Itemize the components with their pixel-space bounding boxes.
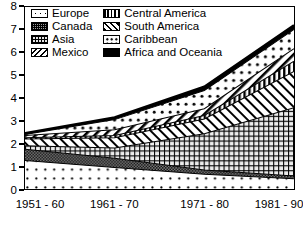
legend-label: Europe [52, 8, 89, 19]
y-tick-label: 1 [5, 161, 17, 173]
stacked-area-chart: 876543210 [0, 0, 303, 232]
y-tick-label: 6 [5, 46, 17, 58]
legend-item-europe[interactable]: Europe [31, 8, 92, 19]
legend-label: Mexico [52, 47, 88, 58]
legend-label: Africa and Oceania [124, 47, 222, 58]
y-tick-3: 3 [0, 115, 24, 127]
y-tick-4: 4 [0, 92, 24, 104]
fine-grid-pattern-icon [31, 35, 48, 45]
x-tick-label-1: 1961 - 70 [90, 196, 139, 212]
legend-item-south-america[interactable]: South America [103, 21, 222, 32]
vertical-stripe-pattern-icon [103, 9, 120, 19]
legend-item-canada[interactable]: Canada [31, 21, 92, 32]
dense-checker-pattern-icon [31, 22, 48, 32]
legend-item-asia[interactable]: Asia [31, 34, 92, 45]
diagonal-hatch-pattern-icon [31, 48, 48, 58]
y-tick-5: 5 [0, 69, 24, 81]
legend-label: Central America [124, 8, 206, 19]
legend-item-africa-and-oceania[interactable]: Africa and Oceania [103, 47, 222, 58]
x-tick-label-0: 1951 - 60 [16, 196, 65, 212]
y-tick-label: 7 [5, 23, 17, 35]
y-axis: 876543210 [0, 0, 24, 196]
legend-label: Caribbean [124, 34, 177, 45]
legend-item-mexico[interactable]: Mexico [31, 47, 92, 58]
legend-label: South America [124, 21, 199, 32]
legend: EuropeCanadaAsiaMexico Central AmericaSo… [31, 8, 231, 58]
x-tick-label-3: 1981 - 90 [255, 196, 303, 212]
sparse-dots-pattern-icon [31, 9, 48, 19]
y-tick-label: 8 [5, 0, 17, 12]
legend-column-right: Central AmericaSouth AmericaCaribbeanAfr… [103, 8, 222, 58]
legend-item-central-america[interactable]: Central America [103, 8, 222, 19]
legend-item-caribbean[interactable]: Caribbean [103, 34, 222, 45]
y-tick-label: 0 [5, 184, 17, 196]
y-tick-7: 7 [0, 23, 24, 35]
legend-column-left: EuropeCanadaAsiaMexico [31, 8, 92, 58]
x-tick-label-2: 1971 - 80 [180, 196, 229, 212]
x-axis: 1951 - 601961 - 701971 - 801981 - 90 [24, 196, 295, 216]
open-dots-pattern-icon [103, 35, 120, 45]
y-tick-label: 3 [5, 115, 17, 127]
legend-label: Canada [52, 21, 92, 32]
y-tick-8: 8 [0, 0, 24, 12]
y-tick-0: 0 [0, 184, 24, 196]
legend-label: Asia [52, 34, 74, 45]
solid-black-fill-icon [103, 48, 120, 58]
y-tick-label: 4 [5, 92, 17, 104]
y-tick-2: 2 [0, 138, 24, 150]
y-tick-6: 6 [0, 46, 24, 58]
diagonal-stripe-pattern-icon [103, 22, 120, 32]
y-tick-1: 1 [0, 161, 24, 173]
y-tick-label: 5 [5, 69, 17, 81]
y-tick-label: 2 [5, 138, 17, 150]
